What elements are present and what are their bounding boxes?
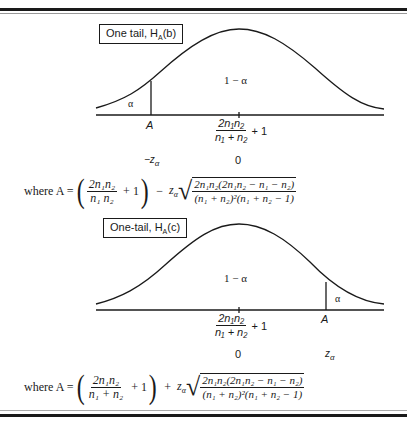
- formula-plus-one: + 1: [131, 380, 147, 395]
- sqrt-numerator: 2n₁n₂(2n₁n₂ − n₁ − n₂): [200, 374, 304, 388]
- mean-numerator: 2n₁n₂: [216, 312, 246, 326]
- formula-z: zα: [177, 379, 186, 395]
- panel-c-z-critical: zα: [325, 348, 335, 362]
- panel-c-tail-label: α: [335, 293, 340, 304]
- panel-b-critical-A: A: [146, 119, 153, 131]
- sqrt-denominator: (n₁ + n₂)²(n₁ + n₂ − 1): [201, 388, 305, 401]
- panel-b-title: One tail, H: [106, 27, 158, 39]
- formula-prefix: where A =: [24, 184, 73, 199]
- formula-prefix: where A =: [24, 380, 73, 395]
- sqrt-denominator: (n₁ + n₂)²(n₁ + n₂ − 1): [192, 192, 296, 205]
- formula-sign: −: [156, 184, 163, 199]
- panel-b-title-suffix: (b): [163, 27, 176, 39]
- formula-sign: +: [164, 380, 171, 395]
- formula-frac-den: n₁ + n₂: [87, 388, 125, 401]
- sqrt-numerator: 2n₁n₂(2n₁n₂ − n₁ − n₂): [192, 178, 296, 192]
- panel-b-mean-expression: 2n₁n₂n₁ + n₂ + 1: [213, 117, 267, 144]
- formula-z: zα: [169, 183, 178, 199]
- panel-b-formula: where A = ( 2n₁n₂n₁ n₂ + 1 ) − zα √2n₁n₂…: [24, 174, 296, 208]
- mean-numerator: 2n₁n₂: [216, 117, 246, 131]
- panel-b-tail-label: α: [128, 98, 133, 109]
- panel-c-z-center: 0: [235, 348, 241, 360]
- formula-plus-one: + 1: [123, 184, 139, 199]
- formula-frac-num: 2n₁n₂: [91, 374, 121, 388]
- mean-plus-one: + 1: [251, 125, 267, 137]
- formula-sqrt: √2n₁n₂(2n₁n₂ − n₁ − n₂)(n₁ + n₂)²(n₁ + n…: [178, 177, 296, 205]
- mean-denominator: n₁ + n₂: [213, 131, 249, 144]
- panel-c-title: One-tail, H: [110, 221, 163, 233]
- panel-b-title-box: One tail, HA(b): [99, 24, 183, 44]
- panel-c-center-label: 1 − α: [224, 272, 247, 284]
- panel-c-title-box: One-tail, HA(c): [103, 218, 187, 238]
- formula-frac-num: 2n₁n₂: [87, 178, 117, 192]
- mean-denominator: n₁ + n₂: [213, 326, 249, 339]
- panel-c-formula: where A = ( 2n₁n₂n₁ + n₂ + 1 ) + zα √2n₁…: [24, 370, 304, 404]
- bottom-rule-thin: [0, 410, 407, 411]
- formula-sqrt: √2n₁n₂(2n₁n₂ − n₁ − n₂)(n₁ + n₂)²(n₁ + n…: [186, 373, 304, 401]
- bottom-rule-thick: [0, 414, 407, 417]
- panel-b-z-center: 0: [235, 154, 241, 166]
- panel-c-critical-A: A: [321, 313, 328, 325]
- mean-plus-one: + 1: [251, 320, 267, 332]
- panel-b-z-critical: −zα: [144, 154, 159, 168]
- formula-frac-den: n₁ n₂: [88, 192, 115, 205]
- normal-curves-figure: [0, 0, 407, 427]
- panel-b-center-label: 1 − α: [224, 74, 247, 86]
- panel-c-mean-expression: 2n₁n₂n₁ + n₂ + 1: [213, 312, 267, 339]
- panel-c-title-suffix: (c): [167, 221, 180, 233]
